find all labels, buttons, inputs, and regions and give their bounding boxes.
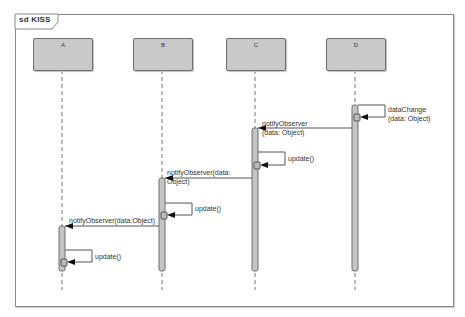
arrowhead-icon [67,259,75,265]
msg-label-notify-a: notifyObserver(data:Object) [69,216,155,225]
lifeline-name: C [227,42,285,48]
msg-label-update-a: update() [95,252,121,261]
msg-label-update-b: update() [195,204,221,213]
lifeline-name: D [327,42,385,48]
lifeline-name: B [134,42,192,48]
self-msg-update-c [258,152,285,165]
msg-label-notify-c: notifyObserver (data: Object) [262,119,308,137]
arrowhead-icon [167,212,175,218]
self-msg-datachange [358,105,385,117]
lifeline-d[interactable]: D [326,38,386,71]
lifeline-b[interactable]: B [133,38,193,71]
arrowhead-icon [260,162,268,168]
activation-bar-c [252,128,258,271]
msg-label-update-c: update() [288,154,314,163]
lifeline-c[interactable]: C [226,38,286,71]
activation-bar-d [352,105,358,271]
arrowhead-icon [360,114,368,120]
lifeline-a[interactable]: A [33,38,93,71]
msg-label-datachange: dataChange (data: Object) [388,105,430,123]
msg-label-notify-b: notifyObserver(data: Object) [167,168,230,186]
self-msg-update-b [165,203,192,215]
lifeline-name: A [34,42,92,48]
activation-bar-b [159,178,165,271]
self-msg-update-a [65,250,92,262]
frame-label: sd KISS [19,15,51,24]
